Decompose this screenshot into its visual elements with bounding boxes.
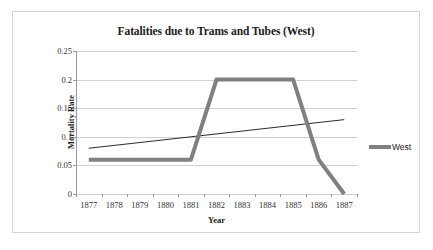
- y-tick-label: 0.25: [57, 46, 72, 56]
- x-tick-label: 1877: [80, 200, 97, 210]
- y-tick-label: 0: [68, 189, 72, 199]
- y-tick-label: 0.15: [57, 103, 72, 113]
- x-tick-label: 1881: [182, 200, 199, 210]
- legend-label-west: West: [392, 142, 411, 152]
- y-tick-label: 0.2: [61, 75, 72, 85]
- x-tick-mark: [331, 194, 332, 197]
- x-tick-label: 1884: [259, 200, 276, 210]
- x-tick-label: 1883: [234, 200, 251, 210]
- x-tick-label: 1880: [157, 200, 174, 210]
- x-tick-mark: [255, 194, 256, 197]
- x-axis-title: Year: [76, 215, 357, 225]
- x-tick-mark: [178, 194, 179, 197]
- x-tick-label: 1887: [336, 200, 353, 210]
- series-plot: [76, 51, 357, 194]
- y-tick-label: 0.1: [61, 132, 72, 142]
- chart-frame: Fatalities due to Trams and Tubes (West)…: [12, 11, 420, 233]
- x-tick-mark: [306, 194, 307, 197]
- x-tick-label: 1882: [208, 200, 225, 210]
- x-tick-label: 1885: [285, 200, 302, 210]
- x-tick-mark: [229, 194, 230, 197]
- x-tick-label: 1878: [106, 200, 123, 210]
- plot-area: 00.050.10.150.20.25 18771878187918801881…: [76, 51, 357, 194]
- gridline: [76, 194, 357, 195]
- chart-legend: West: [369, 142, 411, 152]
- x-tick-label: 1879: [131, 200, 148, 210]
- x-tick-mark: [357, 194, 358, 197]
- x-tick-label: 1886: [310, 200, 327, 210]
- y-tick-label: 0.05: [57, 160, 72, 170]
- x-tick-mark: [76, 194, 77, 197]
- legend-swatch-west: [369, 145, 391, 149]
- x-tick-mark: [204, 194, 205, 197]
- x-tick-mark: [153, 194, 154, 197]
- chart-title: Fatalities due to Trams and Tubes (West): [13, 25, 419, 37]
- x-tick-mark: [127, 194, 128, 197]
- x-tick-mark: [280, 194, 281, 197]
- series-west-path: [89, 80, 344, 194]
- x-tick-mark: [102, 194, 103, 197]
